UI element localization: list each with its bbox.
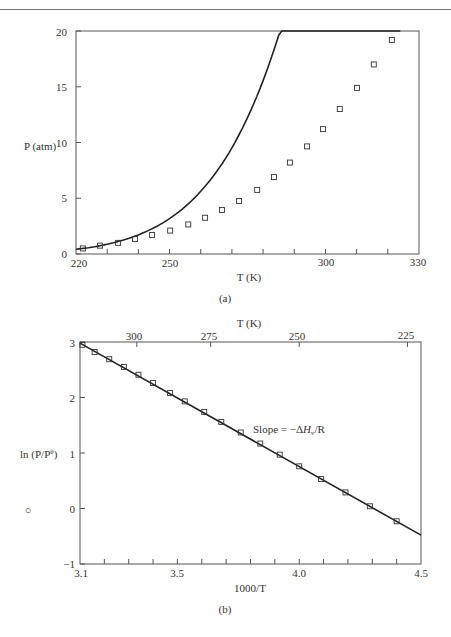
chart-a-y-axis-label: P (atm)	[24, 140, 57, 153]
data-point-square-icon	[354, 85, 359, 90]
chart-b-top-x-tick: 225	[398, 329, 415, 341]
fit-line	[80, 343, 421, 535]
chart-a-plot-frame	[76, 31, 419, 254]
chart-b-y-tick: 3	[70, 337, 76, 349]
chart-b-y-axis-label: ln (P/Pθ)	[20, 448, 58, 461]
figure: 0 5 10 15 20 220 250 300 330 P (atm) T (…	[0, 0, 451, 637]
data-point-square-icon	[320, 127, 325, 132]
data-point-square-icon	[389, 37, 394, 42]
chart-b-y-tick: 2	[70, 392, 76, 404]
chart-a-x-tick: 300	[318, 256, 335, 268]
chart-a-y-tick: 15	[56, 81, 68, 93]
data-point-square-icon	[287, 160, 292, 165]
chart-a-caption: (a)	[219, 292, 232, 305]
chart-a-ticks	[76, 31, 388, 254]
chart-b-top-x-tick: 275	[201, 330, 218, 342]
chart-b-series	[80, 342, 421, 535]
data-point-square-icon	[150, 233, 155, 238]
chart-b-x-tick: 4.0	[292, 567, 306, 579]
chart-b-x-tick: 3.5	[170, 567, 184, 579]
chart-b-plot-frame	[80, 342, 421, 564]
chart-a-series	[76, 31, 400, 251]
data-point-square-icon	[337, 107, 342, 112]
data-point-square-icon	[237, 199, 242, 204]
chart-a-x-tick: 220	[71, 257, 88, 269]
data-point-square-icon	[255, 187, 260, 192]
data-point-square-icon	[203, 215, 208, 220]
chart-b-x-tick: 3.1	[74, 567, 88, 579]
chart-b-ticks	[80, 342, 407, 564]
chart-a: 0 5 10 15 20 220 250 300 330 P (atm) T (…	[24, 26, 427, 305]
data-point-square-icon	[371, 62, 376, 67]
chart-a-x-axis-label: T (K)	[237, 271, 262, 284]
chart-b-top-x-tick: 300	[126, 330, 143, 342]
chart-a-y-tick: 5	[62, 192, 68, 204]
stray-circle-mark: ○	[25, 504, 32, 516]
chart-b-y-tick: 0	[70, 503, 76, 515]
chart-a-y-tick: 0	[62, 248, 68, 260]
chart-b-x-axis-label: 1000/T	[234, 582, 266, 594]
chart-b: T (K) 300 275 250 225 −1 0 1 2 3 3.1 3.5…	[20, 317, 428, 616]
chart-a-y-tick: 20	[56, 26, 68, 38]
chart-b-y-tick: 1	[70, 448, 76, 460]
chart-a-y-tick: 10	[56, 137, 68, 149]
data-point-square-icon	[219, 207, 224, 212]
data-point-square-icon	[272, 175, 277, 180]
data-point-square-icon	[186, 222, 191, 227]
data-point-square-icon	[168, 228, 173, 233]
chart-b-top-x-axis-label: T (K)	[237, 317, 262, 330]
chart-b-x-tick: 4.5	[414, 567, 428, 579]
chart-b-top-x-tick: 250	[289, 330, 306, 342]
fit-curve	[76, 31, 400, 249]
chart-b-caption: (b)	[219, 603, 232, 616]
chart-b-slope-annotation: Slope = −ΔHv/R	[253, 423, 326, 437]
chart-a-x-tick: 250	[162, 257, 179, 269]
data-point-square-icon	[305, 144, 310, 149]
chart-a-x-tick: 330	[410, 256, 427, 268]
